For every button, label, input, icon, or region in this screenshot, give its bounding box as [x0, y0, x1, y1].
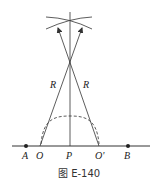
point-label-p: P	[65, 150, 72, 161]
geometry-diagram: R R A O P O' B 图 E-140	[0, 0, 158, 186]
point-label-b: B	[124, 150, 130, 161]
figure-caption: 图 E-140	[58, 168, 100, 179]
radius-line-left	[40, 28, 82, 146]
radius-line-right	[58, 28, 99, 146]
point-label-o: O	[36, 150, 43, 161]
arc-from-o	[46, 17, 92, 29]
arc-from-o-prime	[46, 17, 92, 29]
point-label-a: A	[21, 150, 29, 161]
point-a-dot	[24, 144, 28, 148]
point-b-dot	[126, 144, 130, 148]
radius-label-right: R	[82, 79, 89, 90]
radius-label-left: R	[49, 79, 56, 90]
point-label-o-prime: O'	[95, 150, 105, 161]
